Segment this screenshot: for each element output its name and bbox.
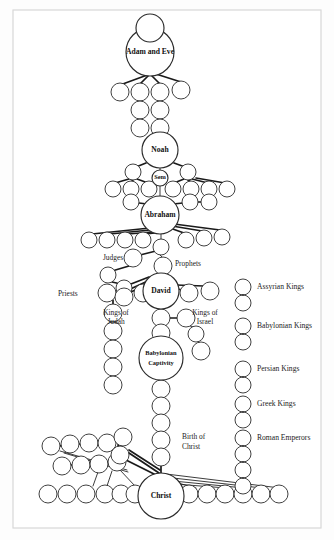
generation-node-prophets-node: [154, 257, 172, 275]
node-label-adam-eve: Adam and Eve: [126, 47, 175, 56]
node-label-babylonian-captivity-line-0: Babylonian: [145, 349, 177, 356]
generation-node-abraham-siblings: [123, 194, 139, 210]
generation-node-judges-chain: [100, 267, 116, 283]
legend-label-persian-kings: Persian Kings: [257, 364, 299, 373]
generation-node-abraham-children: [178, 232, 194, 248]
generation-node-david-row-right: [201, 282, 219, 300]
side-label-kings-of-judah-1: Kings of: [103, 308, 129, 317]
generation-node-adam-children: [151, 83, 169, 101]
generation-node-adam-children: [172, 81, 190, 99]
generation-node-noah-grandchildren: [105, 181, 121, 197]
legend-circle-roman-emperors: [235, 478, 251, 494]
generation-node-adam-chain-right: [151, 101, 169, 119]
generation-node-noah-grandchildren: [165, 181, 181, 197]
generation-node-abraham-children: [214, 229, 230, 245]
generation-node-gentile-row-bottom-left: [58, 485, 76, 503]
legend-circle-roman-emperors: [235, 446, 251, 462]
legend-circle-persian-kings: [235, 361, 251, 377]
generation-node-noah-children: [180, 164, 196, 180]
node-label-sem: Sem: [154, 173, 166, 180]
generation-node-adam-chain-left: [131, 101, 149, 119]
legend-circle-babylonian-kings: [235, 318, 251, 334]
side-label-kings-of-judah-2: Judah: [107, 317, 125, 326]
generation-node-adam-children: [111, 83, 129, 101]
side-label-birth-of-christ-2: Christ: [182, 442, 201, 451]
side-label-priests: Priests: [58, 289, 78, 298]
generation-node-abraham-children: [135, 232, 151, 248]
generation-node-gentile-row-bottom-right: [216, 485, 234, 503]
legend-label-assyrian-kings: Assyrian Kings: [257, 282, 304, 291]
side-label-birth-of-christ-1: Birth of: [182, 432, 206, 441]
node-label-christ: Christ: [151, 491, 172, 500]
generation-node-captivity-chain: [152, 448, 170, 466]
generation-node-kings-israel: [188, 326, 204, 342]
generation-node-noah-children: [125, 164, 141, 180]
generation-node-gentile-row-mid: [53, 457, 71, 475]
legend-circle-roman-emperors: [235, 430, 251, 446]
generation-node-david-row-left: [98, 284, 116, 302]
legend-label-roman-emperors: Roman Emperors: [257, 433, 310, 442]
generation-node-gentile-row-mid: [111, 446, 129, 464]
generation-node-kings-israel: [192, 342, 210, 360]
generation-node-abraham-siblings: [182, 194, 198, 210]
generation-node-abraham-children: [117, 232, 133, 248]
legend-circle-greek-kings: [235, 412, 251, 428]
generation-node-abraham-children: [99, 232, 115, 248]
generation-node-gentile-row-top: [114, 428, 132, 446]
legend-circle-babylonian-kings: [235, 334, 251, 350]
generation-node-gentile-row-bottom-left: [96, 485, 114, 503]
legend-circle-greek-kings: [235, 396, 251, 412]
node-label-david: David: [151, 286, 171, 295]
generation-node-gentile-row-bottom-right: [198, 485, 216, 503]
generation-node-david-row-right: [180, 284, 198, 302]
generation-node-gentile-row-top: [80, 434, 98, 452]
generation-node-captivity-chain: [152, 380, 170, 398]
side-label-judges: Judges: [103, 253, 123, 262]
generation-node-priests-chain: [104, 376, 122, 394]
generation-node-adam-children: [131, 83, 149, 101]
generation-node-gentile-row-mid: [90, 455, 108, 473]
node-label-babylonian-captivity-line-1: Captivity: [148, 359, 174, 366]
node-babylonian-captivity: [139, 336, 183, 380]
generation-node-abraham-siblings: [201, 194, 217, 210]
generation-node-gentile-row-bottom-left: [39, 485, 57, 503]
generation-node-gentile-row-bottom-left: [77, 485, 95, 503]
generation-node-noah-grandchildren: [219, 181, 235, 197]
generation-node-gentile-row-top: [42, 437, 60, 455]
legend-label-greek-kings: Greek Kings: [257, 399, 296, 408]
node-adam-eve-top: [136, 14, 164, 42]
generation-node-priests-chain: [104, 358, 122, 376]
generation-node-david-row-left: [115, 288, 133, 306]
generation-node-abraham-children: [153, 239, 169, 255]
generation-node-gentile-row-top: [61, 435, 79, 453]
legend-circle-assyrian-kings: [235, 295, 251, 311]
node-label-noah: Noah: [151, 145, 169, 154]
generation-node-gentile-row-mid: [72, 456, 90, 474]
side-label-kings-of-israel-2: Israel: [197, 317, 213, 326]
generation-node-gentile-row-bottom-right: [252, 485, 270, 503]
generation-node-adam-chain-left: [131, 119, 149, 137]
genealogy-diagram: Adam and EveNoahSemAbrahamDavidBabylonia…: [0, 0, 334, 540]
generation-node-priests-chain: [104, 340, 122, 358]
generation-node-captivity-chain: [152, 431, 170, 449]
generation-node-judges-chain: [124, 249, 142, 267]
node-label-abraham: Abraham: [144, 210, 176, 219]
side-label-kings-of-israel-1: Kings of: [192, 308, 218, 317]
genealogy-figure: Adam and EveNoahSemAbrahamDavidBabylonia…: [0, 0, 334, 540]
generation-node-gentile-row-bottom-right: [270, 485, 288, 503]
side-label-prophets: Prophets: [175, 259, 201, 268]
legend-circle-persian-kings: [235, 377, 251, 393]
generation-node-captivity-chain: [152, 397, 170, 415]
legend-circle-roman-emperors: [235, 462, 251, 478]
generation-node-abraham-children: [196, 230, 212, 246]
legend-label-babylonian-kings: Babylonian Kings: [257, 321, 312, 330]
legend-circle-assyrian-kings: [235, 279, 251, 295]
generation-node-captivity-chain: [152, 414, 170, 432]
generation-node-abraham-children: [81, 232, 97, 248]
